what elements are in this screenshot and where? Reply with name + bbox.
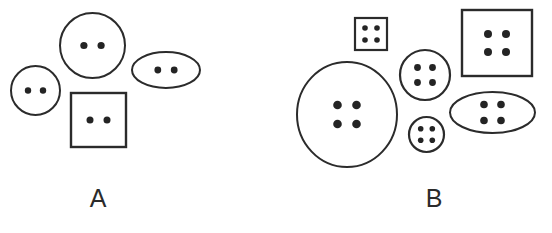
button-medium-circle[interactable] [400, 50, 450, 100]
button-hole-4 [352, 120, 361, 129]
button-hole-2 [497, 101, 505, 109]
button-hole-1 [154, 67, 161, 74]
button-hole-1 [480, 101, 488, 109]
outline-circle [400, 50, 450, 100]
button-large-square[interactable] [462, 10, 532, 76]
button-hole-2 [352, 101, 361, 110]
button-hole-2 [374, 25, 380, 31]
panel-label-a: A [90, 184, 107, 212]
outline-square [462, 10, 532, 76]
panel-label-b: B [426, 184, 443, 212]
button-hole-2 [171, 67, 178, 74]
panel-a: A [11, 13, 200, 212]
button-hole-3 [362, 37, 368, 43]
figure-root: AB [0, 0, 552, 233]
outline-circle [60, 13, 125, 78]
button-hole-3 [484, 48, 492, 56]
button-hole-1 [87, 117, 94, 124]
button-ellipse[interactable] [450, 92, 535, 133]
button-small-square[interactable] [355, 18, 387, 50]
button-hole-1 [25, 87, 31, 93]
button-hole-1 [418, 126, 424, 132]
outline-square [71, 93, 126, 147]
outline-circle [409, 117, 444, 152]
outline-ellipse [450, 92, 535, 133]
button-hole-3 [333, 120, 342, 129]
button-hole-2 [429, 64, 436, 71]
outline-circle [297, 62, 397, 167]
button-hole-1 [80, 42, 87, 49]
button-hole-2 [40, 87, 46, 93]
button-hole-2 [104, 117, 111, 124]
button-small-circle[interactable] [409, 117, 444, 152]
outline-circle [11, 66, 60, 115]
button-hole-4 [429, 79, 436, 86]
button-hole-1 [362, 25, 368, 31]
button-hole-4 [430, 138, 436, 144]
button-square[interactable] [71, 93, 126, 147]
button-hole-2 [502, 30, 510, 38]
button-hole-1 [484, 30, 492, 38]
button-hole-3 [418, 138, 424, 144]
button-large-circle[interactable] [60, 13, 125, 78]
button-hole-4 [502, 48, 510, 56]
button-hole-2 [98, 42, 105, 49]
button-hole-3 [414, 79, 421, 86]
button-hole-3 [480, 117, 488, 125]
outline-ellipse [132, 52, 200, 88]
button-ellipse[interactable] [132, 52, 200, 88]
button-hole-1 [414, 64, 421, 71]
button-small-circle[interactable] [11, 66, 60, 115]
outline-square [355, 18, 387, 50]
button-hole-4 [374, 37, 380, 43]
button-hole-2 [430, 126, 436, 132]
figure-canvas: AB [0, 0, 552, 233]
button-large-circle[interactable] [297, 62, 397, 167]
button-hole-4 [497, 117, 505, 125]
panel-b: B [297, 10, 535, 212]
button-hole-1 [333, 101, 342, 110]
